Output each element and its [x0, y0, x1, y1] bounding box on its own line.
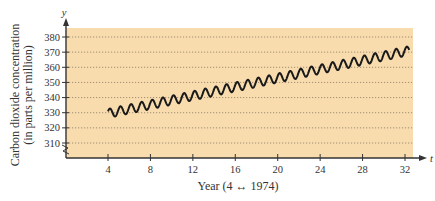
plot-background [66, 28, 413, 158]
x-tick-label: 28 [357, 164, 368, 175]
y-tick-label: 340 [44, 92, 60, 103]
co2-chart: 310320330340350360370380 48121620242832 … [0, 0, 435, 201]
y-tick-label: 370 [44, 47, 60, 58]
y-axis-variable: y [61, 7, 67, 18]
y-tick-label: 330 [44, 107, 60, 118]
y-axis-title: Carbon dioxide concentration (in parts p… [8, 24, 35, 167]
x-tick-label: 32 [400, 164, 411, 175]
x-axis-title: Year (4 ↔ 1974) [197, 179, 278, 193]
y-tick-label: 360 [44, 62, 60, 73]
y-tick-label: 310 [44, 138, 60, 149]
y-tick-label: 350 [44, 77, 60, 88]
x-axis-variable: t [430, 153, 434, 164]
x-tick-label: 12 [188, 164, 199, 175]
x-axis-arrow-icon [419, 155, 427, 161]
x-tick-label: 8 [148, 164, 153, 175]
x-tick-label: 16 [230, 164, 241, 175]
y-tick-label: 380 [44, 32, 60, 43]
y-axis-title-line1: Carbon dioxide concentration [8, 24, 22, 167]
x-tick-label: 24 [315, 164, 326, 175]
y-axis-title-line2: (in parts per million) [21, 45, 35, 145]
y-axis-arrow-icon [63, 18, 69, 26]
y-tick-label: 320 [44, 122, 60, 133]
x-tick-label: 20 [272, 164, 283, 175]
x-tick-label: 4 [105, 164, 111, 175]
y-axis-ticks: 310320330340350360370380 [44, 32, 69, 149]
